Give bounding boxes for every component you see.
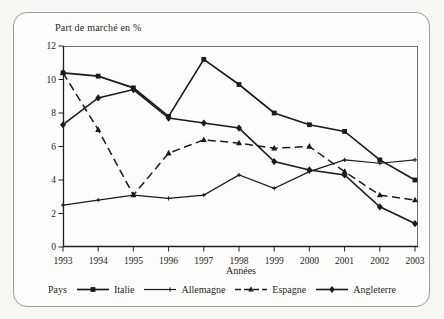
chart-legend: Pays Italie Allemagne Espagne Angleterre xyxy=(18,284,426,295)
x-axis-title: Années xyxy=(209,265,273,276)
legend-sample-angleterre xyxy=(315,284,349,295)
y-tick-label: 4 xyxy=(51,175,56,185)
legend-item-allemagne: Allemagne xyxy=(143,284,225,295)
legend-line-sample xyxy=(315,284,349,295)
y-tick-label: 0 xyxy=(51,242,56,252)
x-tick-label: 1995 xyxy=(124,256,143,266)
legend-label-espagne: Espagne xyxy=(272,284,306,295)
tick-marker-icon xyxy=(167,196,171,200)
x-tick-label: 1997 xyxy=(194,256,213,266)
square-marker-icon xyxy=(307,122,312,127)
y-tick-label: 8 xyxy=(51,108,56,118)
square-marker-icon xyxy=(237,82,242,87)
tick-marker-icon xyxy=(168,287,172,291)
legend-sample-allemagne xyxy=(143,284,177,295)
square-marker-icon xyxy=(201,57,206,62)
diamond-marker-icon xyxy=(329,286,335,293)
x-tick-label: 1993 xyxy=(54,256,73,266)
square-marker-icon xyxy=(272,111,277,116)
legend-line-sample xyxy=(76,284,110,295)
series-line-espagne xyxy=(63,73,415,200)
x-tick-label: 2001 xyxy=(335,256,354,266)
square-marker-icon xyxy=(413,178,418,183)
triangle-marker-icon xyxy=(166,150,172,156)
square-marker-icon xyxy=(377,158,382,163)
tick-marker-icon xyxy=(61,203,65,207)
series-allemagne xyxy=(61,158,417,207)
triangle-marker-icon xyxy=(201,136,207,142)
diamond-marker-icon xyxy=(201,119,207,126)
legend-sample-espagne xyxy=(234,284,268,295)
legend-line-sample xyxy=(234,284,268,295)
legend-item-italie: Italie xyxy=(76,284,135,295)
legend-sample-italie xyxy=(76,284,110,295)
square-marker-icon xyxy=(96,74,101,79)
legend-line-sample xyxy=(143,284,177,295)
square-marker-icon xyxy=(131,85,136,90)
legend-label-allemagne: Allemagne xyxy=(181,284,225,295)
x-tick-label: 1994 xyxy=(89,256,108,266)
square-marker-icon xyxy=(166,114,171,119)
y-tick-label: 10 xyxy=(47,75,57,85)
tick-marker-icon xyxy=(413,158,417,162)
square-marker-icon xyxy=(91,287,96,292)
tick-marker-icon xyxy=(96,198,100,202)
y-tick-label: 12 xyxy=(47,41,57,51)
series-italie xyxy=(61,57,418,182)
legend-item-angleterre: Angleterre xyxy=(315,284,396,295)
axes-lines xyxy=(64,46,419,247)
series-angleterre xyxy=(60,86,418,227)
legend-item-espagne: Espagne xyxy=(234,284,306,295)
x-tick-label: 1998 xyxy=(230,256,249,266)
x-tick-label: 2002 xyxy=(370,256,389,266)
x-tick-label: 2003 xyxy=(406,256,425,266)
legend-label-angleterre: Angleterre xyxy=(353,284,396,295)
tick-marker-icon xyxy=(343,158,347,162)
x-tick-label: 1999 xyxy=(265,256,284,266)
legend-title: Pays xyxy=(48,284,67,295)
legend-label-italie: Italie xyxy=(114,284,135,295)
y-tick-label: 6 xyxy=(51,142,56,152)
series-line-angleterre xyxy=(63,90,415,224)
x-tick-label: 1996 xyxy=(159,256,178,266)
y-tick-label: 2 xyxy=(51,209,56,219)
square-marker-icon xyxy=(342,129,347,134)
series-espagne xyxy=(60,69,418,202)
x-tick-label: 2000 xyxy=(300,256,319,266)
tick-marker-icon xyxy=(272,186,276,190)
triangle-marker-icon xyxy=(377,192,383,198)
square-marker-icon xyxy=(61,70,66,75)
